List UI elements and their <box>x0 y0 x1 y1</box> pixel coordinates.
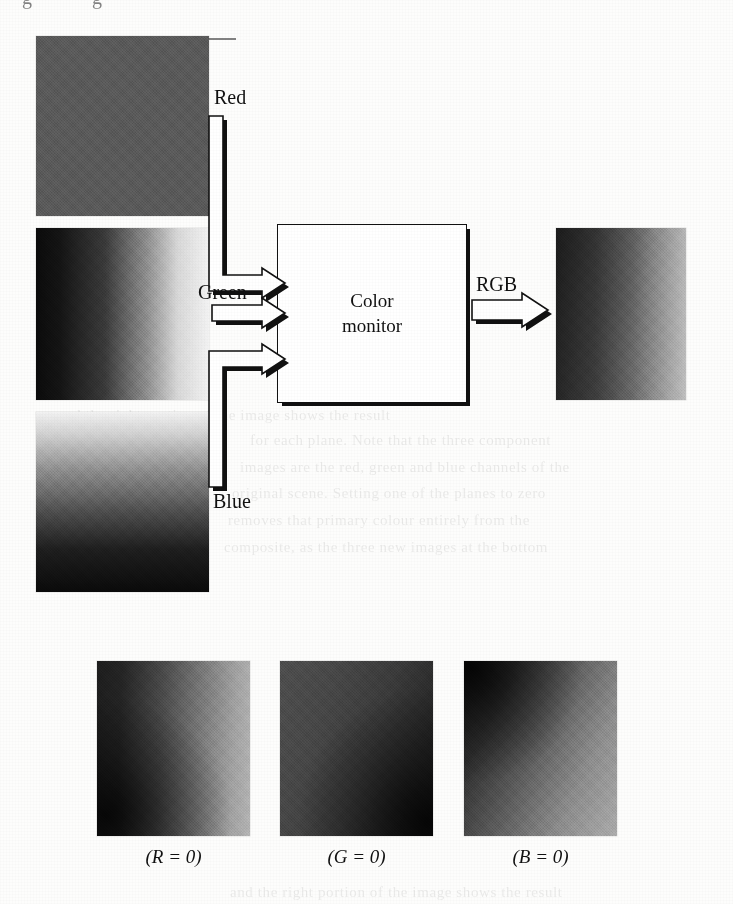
green-channel-image <box>36 228 209 400</box>
bleed-line: removes that primary colour entirely fro… <box>228 510 530 531</box>
caption-b-zero: (B = 0) <box>464 846 617 868</box>
rgb-arrow-label: RGB <box>476 273 517 296</box>
image-b-zero <box>464 661 617 836</box>
bleed-line: and the right portion of the image shows… <box>230 882 563 903</box>
color-monitor-block: Color monitor <box>277 224 467 403</box>
page-top-descenders: gg <box>22 0 162 9</box>
red-channel-image <box>36 36 209 216</box>
scan-grain <box>556 228 686 400</box>
image-g-zero <box>280 661 433 836</box>
scan-grain <box>36 228 209 400</box>
bleed-line: composite, as the three new images at th… <box>224 537 548 558</box>
caption-r-zero: (R = 0) <box>97 846 250 868</box>
color-monitor-label: Color monitor <box>278 288 466 338</box>
blue-arrow-label: Blue <box>213 490 251 513</box>
bleed-line: images are the red, green and blue chann… <box>240 457 570 478</box>
green-arrow-label: Green <box>198 281 247 304</box>
rgb-arrow <box>472 293 552 331</box>
bleed-line: original scene. Setting one of the plane… <box>232 483 546 504</box>
scan-grain <box>280 661 433 836</box>
bleed-line: for each plane. Note that the three comp… <box>250 430 551 451</box>
figure-page: gg and the right portion of the image sh… <box>0 0 733 904</box>
scan-grain <box>36 36 209 216</box>
scan-grain <box>97 661 250 836</box>
scan-grain <box>464 661 617 836</box>
red-arrow-label: Red <box>214 86 246 109</box>
image-r-zero <box>97 661 250 836</box>
blue-channel-image <box>36 412 209 592</box>
caption-g-zero: (G = 0) <box>280 846 433 868</box>
rgb-output-image <box>556 228 686 400</box>
scan-grain <box>36 412 209 592</box>
